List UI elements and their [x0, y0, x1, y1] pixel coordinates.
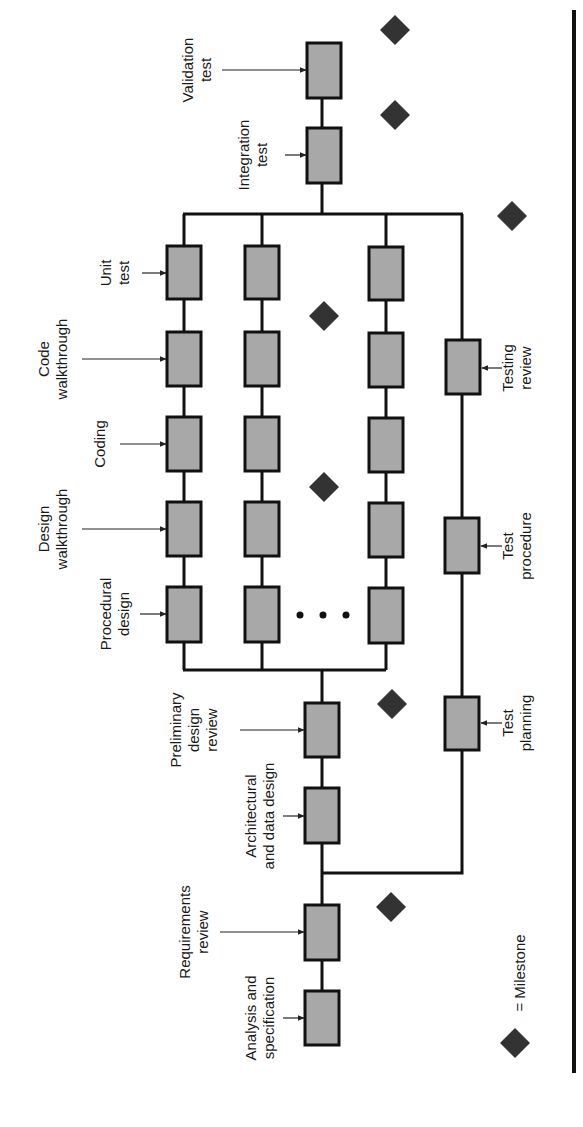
- milestone-icon: [497, 201, 527, 231]
- milestone-icon: [376, 892, 406, 922]
- label-test-procedure: Test procedure: [499, 512, 534, 580]
- label-code-walkthrough: Code walkthrough: [35, 319, 70, 401]
- svg-text:test: test: [115, 260, 132, 285]
- label-analysis: Analysis and specification: [242, 975, 277, 1060]
- svg-text:specification: specification: [260, 977, 277, 1060]
- milestone-icon: [377, 689, 407, 719]
- box-validation-test: [307, 43, 341, 98]
- milestone-icon: [309, 301, 339, 331]
- svg-text:test: test: [197, 57, 214, 82]
- svg-text:Analysis and: Analysis and: [242, 975, 259, 1060]
- label-test-planning: Test planning: [499, 695, 534, 752]
- svg-text:Preliminary: Preliminary: [167, 692, 184, 768]
- milestone-icon: [380, 15, 410, 45]
- box-preliminary-review: [305, 703, 339, 757]
- label-design-walkthrough: Design walkthrough: [35, 489, 70, 571]
- svg-text:procedure: procedure: [517, 512, 534, 580]
- label-integration-test: Integration test: [235, 120, 270, 191]
- svg-text:design: design: [185, 708, 202, 752]
- svg-text:design: design: [115, 592, 132, 636]
- svg-text:Test: Test: [499, 531, 516, 559]
- svg-text:Design: Design: [35, 506, 52, 553]
- box-integration-test: [307, 128, 341, 183]
- label-testing-review: Testing review: [499, 344, 534, 392]
- module-column-wires: [184, 214, 386, 670]
- label-preliminary-review: Preliminary design review: [167, 692, 220, 768]
- svg-text:review: review: [517, 346, 534, 390]
- box-test-planning: [445, 697, 479, 750]
- legend-milestone: = Milestone: [511, 934, 528, 1011]
- svg-text:walkthrough: walkthrough: [53, 319, 70, 401]
- milestone-icon: [380, 100, 410, 130]
- box-testing-review: [446, 340, 480, 394]
- ellipsis-icon: [297, 612, 350, 619]
- svg-text:and data design: and data design: [260, 763, 277, 870]
- svg-text:Integration: Integration: [235, 120, 252, 191]
- svg-text:Coding: Coding: [91, 420, 108, 468]
- label-validation-test: Validation test: [179, 38, 214, 103]
- label-coding: Coding: [91, 420, 108, 468]
- svg-text:Test: Test: [499, 708, 516, 736]
- label-architectural: Architectural and data design: [242, 763, 277, 870]
- software-process-diagram: Analysis and specification Requirements …: [0, 0, 583, 1127]
- label-unit-test: Unit test: [97, 259, 132, 287]
- milestone-icon: [309, 472, 339, 502]
- box-requirements-review: [305, 905, 339, 960]
- svg-text:Validation: Validation: [179, 38, 196, 103]
- box-test-procedure: [445, 518, 479, 573]
- svg-text:Architectural: Architectural: [242, 774, 259, 857]
- svg-text:review: review: [194, 910, 211, 954]
- svg-text:= Milestone: = Milestone: [511, 934, 528, 1011]
- svg-text:Requirements: Requirements: [176, 885, 193, 978]
- box-analysis: [305, 991, 339, 1045]
- label-arrows: [82, 70, 502, 1018]
- svg-text:walkthrough: walkthrough: [53, 489, 70, 571]
- label-procedural-design: Procedural design: [97, 578, 132, 651]
- test-branch-wire: [322, 750, 462, 873]
- svg-text:Unit: Unit: [97, 259, 114, 287]
- svg-text:Testing: Testing: [499, 344, 516, 392]
- label-requirements-review: Requirements review: [176, 885, 211, 978]
- svg-text:Procedural: Procedural: [97, 578, 114, 651]
- milestone-legend-icon: [500, 1028, 530, 1058]
- svg-text:review: review: [203, 708, 220, 752]
- svg-text:test: test: [253, 142, 270, 167]
- svg-text:planning: planning: [517, 695, 534, 752]
- svg-text:Code: Code: [35, 341, 52, 377]
- box-architectural: [305, 788, 339, 843]
